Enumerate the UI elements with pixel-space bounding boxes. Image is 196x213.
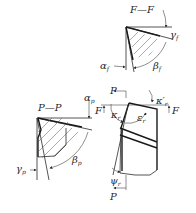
plan-kappa-prime-arrow bbox=[149, 90, 152, 102]
plan-view: P F F P κr κ′r εr ψr bbox=[94, 85, 180, 202]
pp-beta-label: βp bbox=[71, 154, 82, 167]
ff-beta-label: βf bbox=[152, 60, 163, 73]
ff-alpha-label: αf bbox=[100, 60, 111, 73]
ff-alpha-arrow bbox=[114, 66, 125, 67]
plan-p-top-label: P bbox=[109, 85, 117, 96]
tool-angle-diagram: F—F γf αf βf P—P bbox=[0, 0, 196, 213]
pp-beta-arc bbox=[50, 132, 88, 168]
ff-gamma-label: γf bbox=[170, 29, 180, 42]
pp-wedge-outline bbox=[38, 128, 66, 157]
plan-psi-arc bbox=[112, 168, 120, 172]
plan-f-right-label: F bbox=[171, 105, 180, 116]
plan-f-left-label: F bbox=[94, 105, 103, 116]
plan-kappa-label: κr bbox=[110, 109, 122, 121]
plan-kappa-prime-label: κ′r bbox=[155, 95, 169, 107]
section-ff-title: F—F bbox=[129, 4, 155, 15]
plan-p-bottom-label: P bbox=[109, 191, 117, 202]
plan-epsilon-label: εr bbox=[137, 112, 146, 124]
section-pp: P—P αp γp βp bbox=[16, 92, 95, 180]
plan-psi-label: ψr bbox=[110, 175, 122, 187]
pp-alpha-label: αp bbox=[84, 92, 95, 105]
section-pp-title: P—P bbox=[37, 102, 62, 113]
pp-gamma-label: γp bbox=[16, 163, 26, 176]
plan-tool-stripes bbox=[120, 128, 157, 148]
section-ff: F—F γf αf βf bbox=[100, 4, 180, 73]
ff-gamma-arc bbox=[163, 10, 166, 27]
